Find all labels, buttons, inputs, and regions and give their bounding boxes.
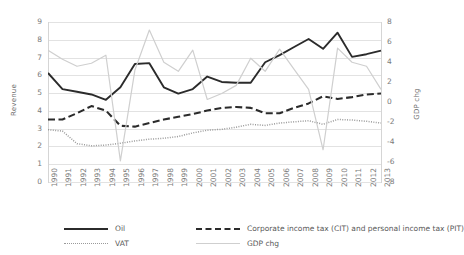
legend-item-cit-pit: Corporate income tax (CIT) and personal … — [196, 222, 464, 234]
legend-item-oil: Oil — [64, 222, 125, 234]
chart-legend: Oil Corporate income tax (CIT) and perso… — [26, 222, 426, 252]
y-axis-left-title: Revenue — [10, 70, 18, 130]
legend-label-oil: Oil — [115, 224, 125, 233]
plot-area — [48, 22, 382, 183]
y-tick-left: 5 — [26, 89, 42, 97]
series-line — [48, 119, 381, 145]
y-tick-right: -6 — [387, 158, 405, 166]
y-tick-left: 1 — [26, 160, 42, 168]
x-tick: 2013 — [384, 168, 392, 187]
y-tick-right: 2 — [387, 78, 405, 86]
series-line — [48, 30, 381, 161]
y-tick-right: 8 — [387, 18, 405, 26]
y-tick-right: -2 — [387, 118, 405, 126]
legend-label-vat: VAT — [115, 239, 129, 248]
y-tick-right: 6 — [387, 38, 405, 46]
y-tick-left: 4 — [26, 107, 42, 115]
y-tick-left: 0 — [26, 178, 42, 186]
y-tick-left: 7 — [26, 54, 42, 62]
y-tick-left: 9 — [26, 18, 42, 26]
y-tick-right: 0 — [387, 98, 405, 106]
legend-item-gdp-chg: GDP chg — [196, 237, 279, 249]
y-tick-right: -4 — [387, 138, 405, 146]
legend-item-vat: VAT — [64, 237, 129, 249]
y-axis-right-title: GDP chg — [413, 74, 421, 134]
legend-label-cit-pit: Corporate income tax (CIT) and personal … — [247, 224, 464, 233]
y-tick-left: 8 — [26, 36, 42, 44]
legend-swatch-dotted-icon — [64, 238, 108, 248]
legend-label-gdp-chg: GDP chg — [247, 239, 279, 248]
y-tick-left: 6 — [26, 71, 42, 79]
y-tick-left: 3 — [26, 125, 42, 133]
legend-swatch-solid-icon — [64, 223, 108, 233]
legend-swatch-dashed-icon — [196, 223, 240, 233]
legend-swatch-light-solid-icon — [196, 238, 240, 248]
series-lines — [48, 22, 382, 183]
y-tick-right: 4 — [387, 58, 405, 66]
y-tick-left: 2 — [26, 142, 42, 150]
